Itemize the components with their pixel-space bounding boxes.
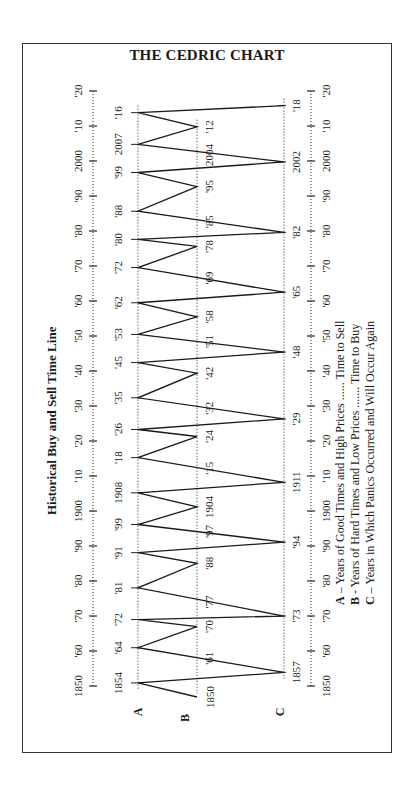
lane-b-marker: B [178,714,192,722]
vertex-label-a: '35 [112,391,124,404]
vertex-label-a: '88 [112,204,124,217]
axis-tick-label: '90 [320,539,332,552]
axis-tick-label: '20 [72,434,84,447]
axis-tick-label: '10 [72,469,84,482]
axis-tick-label: '30 [320,399,332,412]
axis-tick-label: '30 [72,399,84,412]
vertex-label-a: '81 [112,581,124,594]
axis-tick-label: '10 [320,119,332,132]
legend-text: – Years in Which Panics Occurred and Wil… [363,321,377,596]
lane-a-marker: A [131,707,145,716]
vertex-label-b: '58 [203,310,215,323]
vertex-label-c: 1857 [290,661,302,684]
vertex-label-b: '88 [203,556,215,569]
axis-tick-label: '60 [72,644,84,657]
legend-key: B [348,597,362,605]
vertex-label-c: '18 [290,99,302,112]
crossing-label: '77 [203,595,215,608]
vertex-label-a: '99 [112,166,124,179]
axis-tick-label: '80 [72,574,84,587]
vertex-label-a: 1854 [112,671,124,694]
axis-tick-label: 1900 [72,500,84,523]
legend-text: - Years of Hard Times and Low Prices ...… [348,324,362,597]
axis-tick-label: 2000 [320,150,332,173]
vertex-label-a: '62 [112,296,124,309]
vertex-label-c: '65 [290,285,302,298]
vertex-label-b: 1850 [204,686,216,709]
vertex-label-b: 1904 [203,495,215,518]
vertex-label-a: '64 [112,641,124,654]
vertex-label-b: '12 [203,120,215,133]
legend-key: C [363,596,377,605]
crossing-label: '85 [203,215,215,228]
axis-tick-label: '90 [320,189,332,202]
crossing-label: 2004 [203,143,215,166]
axis-tick-label: '60 [320,644,332,657]
vertex-label-a: '72 [112,261,124,274]
vertex-label-b: '70 [203,620,215,633]
crossing-label: '69 [203,271,215,284]
axis-tick-label: '70 [320,259,332,272]
vertex-label-c: 1911 [290,471,302,493]
vertex-label-a: 2007 [112,133,124,156]
axis-tick-label: '70 [72,259,84,272]
axis-tick-label: '70 [320,609,332,622]
vertex-label-c: '82 [290,226,302,239]
axis-tick-label: '80 [320,224,332,237]
axis-tick-label: '10 [320,469,332,482]
vertex-label-c: 2002 [290,151,302,173]
lane-c-marker: C [273,708,287,717]
axis-tick-label: 1850 [320,675,332,698]
crossing-label: '97 [203,525,215,538]
axis-tick-label: '50 [72,329,84,342]
axis-tick-label: '10 [72,119,84,132]
vertex-label-b: '78 [203,239,215,252]
axis-tick-label: 1900 [320,500,332,523]
vertex-label-c: '48 [290,345,302,358]
axis-tick-label: '80 [72,224,84,237]
legend-item-a: A – Years of Good Times and High Prices … [333,321,348,605]
axis-tick-label: '60 [320,294,332,307]
crossing-label: '61 [203,652,215,665]
vertex-label-a: '72 [112,613,124,626]
axis-tick-label: '40 [320,364,332,377]
vertex-label-a: '18 [112,451,124,464]
axis-tick-label: 2000 [72,150,84,173]
axis-tick-label: '40 [72,364,84,377]
axis-tick-label: '60 [72,294,84,307]
vertex-label-c: '73 [290,609,302,622]
vertex-label-a: '53 [112,327,124,340]
axis-tick-label: '90 [72,189,84,202]
axis-tick-label: '20 [320,434,332,447]
crossing-label: '51 [203,335,215,348]
legend-item-c: C – Years in Which Panics Occurred and W… [363,321,378,605]
axis-tick-label: '20 [72,84,84,97]
vertex-label-a: '26 [112,422,124,435]
vertex-label-a: '45 [112,356,124,369]
axis-tick-label: 1850 [72,675,84,698]
vertex-label-b: '95 [203,180,215,193]
axis-tick-label: '90 [72,539,84,552]
axis-tick-label: '50 [320,329,332,342]
legend-key: A [333,596,347,605]
vertex-label-a: '91 [112,546,124,559]
legend-text: – Years of Good Times and High Prices ..… [333,321,347,597]
vertex-label-c: '94 [290,535,302,548]
vertex-label-a: '16 [112,106,124,119]
axis-tick-label: '20 [320,84,332,97]
vertex-label-a: '99 [112,518,124,531]
vertex-label-c: '29 [290,412,302,425]
chart-legend: A – Years of Good Times and High Prices … [333,321,378,605]
vertex-label-a: '80 [112,232,124,245]
crossing-label: '15 [203,461,215,474]
vertex-label-a: 1908 [112,481,124,504]
axis-tick-label: '70 [72,609,84,622]
legend-item-b: B - Years of Hard Times and Low Prices .… [348,321,363,605]
vertex-label-b: '24 [203,430,215,443]
axis-tick-label: '80 [320,574,332,587]
vertex-label-b: '42 [203,367,215,380]
crossing-label: '32 [203,402,215,415]
